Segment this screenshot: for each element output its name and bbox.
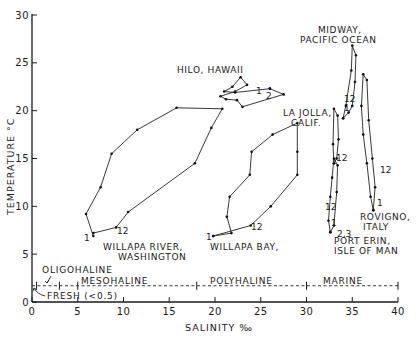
data-point (331, 176, 334, 179)
month-label: 12 (344, 94, 355, 104)
data-point (362, 133, 365, 136)
label-willapa-river: WILLAPA RIVER, (103, 242, 183, 252)
data-point (329, 231, 332, 234)
x-tick-label: 25 (254, 306, 268, 317)
series-line (221, 77, 284, 107)
data-point (127, 211, 130, 214)
data-point (329, 195, 332, 198)
series-hilo-hawaii (219, 76, 285, 108)
month-label: 1 (331, 218, 337, 228)
x-tick-label: 35 (345, 306, 359, 317)
y-tick-label: 10 (15, 201, 29, 212)
x-tick-label: 5 (74, 306, 81, 317)
data-point (354, 81, 357, 84)
label-pacific-ocean: PACIFIC OCEAN (300, 35, 377, 45)
label-rovigno: ROVIGNO, (360, 212, 410, 222)
y-tick-label: 25 (15, 57, 29, 68)
data-point (226, 216, 229, 219)
zone-label-marine: MARINE (323, 276, 363, 286)
data-point (92, 232, 95, 235)
data-point (231, 85, 234, 88)
chart-canvas: 051015202530 0510152025303540 TEMPERATUR… (0, 0, 418, 339)
zone-label-mesohaline: MESOHALINE (81, 276, 148, 286)
data-point (350, 69, 353, 72)
zone-label-oligohaline: OLIGOHALINE (42, 265, 113, 275)
series-willapa-bay (212, 122, 299, 237)
label-calif: CALIF. (291, 118, 321, 128)
data-point (110, 152, 113, 155)
label-hilo: HILO, HAWAII (177, 65, 243, 75)
data-point (333, 107, 336, 110)
data-point (336, 114, 339, 117)
data-point (271, 133, 274, 136)
data-point (210, 127, 213, 130)
data-point (371, 157, 374, 160)
data-point (219, 95, 222, 98)
month-label: 12 (380, 165, 391, 175)
label-washington: WASHINGTON (118, 252, 186, 262)
arrowhead-icon (45, 280, 49, 283)
data-point (234, 90, 237, 93)
x-tick-label: 20 (208, 306, 222, 317)
data-point (223, 90, 226, 93)
data-point (282, 93, 285, 96)
month-label: 12 (117, 226, 128, 236)
month-label: 12 (325, 202, 336, 212)
y-tick-label: 5 (22, 249, 29, 260)
label-isle-of-man: ISLE OF MAN (334, 246, 398, 256)
month-label: 12 (251, 222, 262, 232)
data-point (351, 105, 354, 108)
series-line (213, 123, 297, 236)
x-tick-label: 0 (29, 306, 36, 317)
y-axis-label: TEMPERATURE °C (5, 118, 16, 216)
label-italy: ITALY (363, 222, 389, 232)
data-point (270, 205, 273, 208)
data-point (355, 54, 358, 57)
data-point (360, 105, 363, 108)
data-point (335, 191, 338, 194)
data-point (85, 213, 88, 216)
temperature-salinity-chart: 051015202530 0510152025303540 TEMPERATUR… (0, 0, 418, 339)
data-point (99, 186, 102, 189)
data-point (296, 173, 299, 176)
month-label: 1 (206, 232, 212, 242)
month-label: 1 (377, 198, 383, 208)
x-tick-label: 15 (162, 306, 176, 317)
label-midway: MIDWAY, (318, 25, 362, 35)
data-point (366, 79, 369, 82)
data-point (225, 98, 228, 101)
data-point (230, 232, 233, 235)
data-point (337, 138, 340, 141)
x-axis-label: SALINITY ‰ (185, 322, 253, 333)
month-label: 1 (256, 86, 262, 96)
series-rovigno-italy (360, 73, 376, 211)
x-tick-label: 40 (391, 306, 405, 317)
x-tick-label: 30 (300, 306, 314, 317)
label-willapa-bay: WILLAPA BAY, (210, 242, 279, 252)
series-line (86, 108, 222, 236)
data-point (246, 84, 249, 87)
data-point (366, 162, 369, 165)
series-willapa-river-washington (85, 106, 224, 237)
data-point (374, 186, 377, 189)
data-point (296, 151, 299, 154)
y-tick-label: 20 (15, 105, 29, 116)
data-point (239, 76, 242, 79)
month-label: 2 (266, 91, 272, 101)
data-point (212, 235, 215, 238)
y-tick-label: 30 (15, 10, 29, 21)
data-point (269, 87, 272, 90)
zone-label-fresh: FRESH (<0.5) (47, 291, 118, 301)
month-label: 1 (344, 103, 350, 113)
x-tick-label: 10 (117, 306, 131, 317)
data-point (248, 173, 251, 176)
data-point (92, 235, 95, 238)
data-point (228, 195, 231, 198)
data-point (333, 157, 336, 160)
y-ticks: 051015202530 (15, 10, 37, 308)
data-point (342, 117, 345, 120)
data-point (336, 164, 339, 167)
data-point (241, 106, 244, 109)
data-point (367, 119, 370, 122)
month-label: 2,3 (337, 229, 351, 239)
